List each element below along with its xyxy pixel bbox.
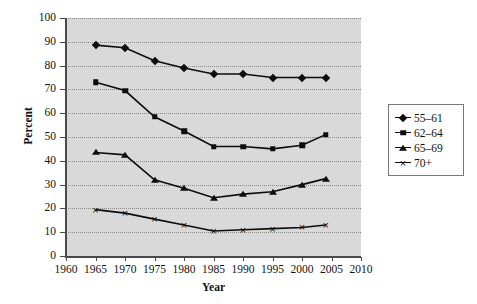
y-tick-mark <box>60 208 65 209</box>
y-tick-label: 80 <box>28 60 56 72</box>
legend-item-label: 62–64 <box>411 127 443 139</box>
y-axis-line <box>65 18 67 257</box>
data-point-marker: × <box>268 224 277 233</box>
data-point-marker <box>209 70 217 78</box>
data-point-marker: × <box>150 215 159 224</box>
plot-area: ××××××××× <box>66 18 361 256</box>
y-tick-mark <box>60 161 65 162</box>
legend-item: 65–69 <box>395 140 459 155</box>
y-tick-label: 100 <box>28 12 56 24</box>
data-point-marker <box>323 132 329 138</box>
legend-item-label: 55–61 <box>411 112 443 124</box>
x-tick-label: 2010 <box>337 263 385 275</box>
data-markers: ××××××××× <box>66 18 361 256</box>
x-tick-mark <box>273 257 274 261</box>
data-point-marker: × <box>180 221 189 230</box>
data-point-marker <box>299 143 305 149</box>
data-point-marker <box>268 73 276 81</box>
y-tick-label: 90 <box>28 36 56 48</box>
data-point-marker <box>211 144 217 150</box>
data-point-marker <box>122 88 128 94</box>
data-point-marker <box>239 70 247 78</box>
data-point-marker <box>91 41 99 49</box>
legend-item: 62–64 <box>395 125 459 140</box>
x-tick-mark <box>184 257 185 261</box>
y-tick-mark <box>60 113 65 114</box>
data-point-marker: × <box>121 209 130 218</box>
legend-item-label: 65–69 <box>411 142 443 154</box>
data-point-marker <box>239 191 247 197</box>
legend-item-label: 70+ <box>411 157 432 169</box>
data-point-marker: × <box>91 205 100 214</box>
data-point-marker <box>210 194 218 200</box>
data-point-marker <box>180 64 188 72</box>
x-tick-mark <box>66 257 67 261</box>
data-point-marker <box>269 188 277 194</box>
data-point-marker <box>93 80 99 86</box>
data-point-marker <box>240 144 246 150</box>
data-point-marker <box>270 146 276 152</box>
data-point-marker: × <box>321 221 330 230</box>
y-tick-label: 0 <box>28 250 56 262</box>
data-point-marker <box>298 73 306 81</box>
data-point-marker <box>152 114 158 120</box>
legend-square-icon <box>395 127 411 139</box>
data-point-marker <box>92 149 100 155</box>
legend-item: 55–61 <box>395 110 459 125</box>
data-point-marker: × <box>239 225 248 234</box>
y-tick-mark <box>60 137 65 138</box>
y-tick-label: 30 <box>28 179 56 191</box>
y-tick-mark <box>60 89 65 90</box>
data-point-marker <box>121 44 129 52</box>
y-tick-mark <box>60 256 65 257</box>
data-point-marker <box>151 177 159 183</box>
legend-diamond-icon <box>395 112 411 124</box>
x-tick-mark <box>361 257 362 261</box>
data-point-marker: × <box>209 227 218 236</box>
y-axis-title: Percent <box>22 86 34 166</box>
x-axis-title: Year <box>66 281 361 293</box>
x-tick-mark <box>302 257 303 261</box>
data-point-marker <box>181 128 187 134</box>
data-point-marker <box>298 181 306 187</box>
x-tick-mark <box>214 257 215 261</box>
data-point-marker <box>121 152 129 158</box>
legend-cross-icon: × <box>395 157 411 169</box>
y-tick-mark <box>60 232 65 233</box>
data-point-marker <box>322 175 330 181</box>
y-tick-mark <box>60 18 65 19</box>
y-tick-mark <box>60 66 65 67</box>
y-tick-label: 10 <box>28 226 56 238</box>
x-tick-mark <box>125 257 126 261</box>
y-tick-label: 20 <box>28 202 56 214</box>
chart-figure: ××××××××× 0102030405060708090100 1960196… <box>0 0 477 304</box>
x-tick-mark <box>332 257 333 261</box>
y-tick-mark <box>60 185 65 186</box>
legend-triangle-icon <box>395 142 411 154</box>
data-point-marker <box>321 73 329 81</box>
y-tick-mark <box>60 42 65 43</box>
x-tick-mark <box>243 257 244 261</box>
legend-item: × 70+ <box>395 155 459 170</box>
x-tick-mark <box>155 257 156 261</box>
data-point-marker <box>150 57 158 65</box>
data-point-marker <box>180 185 188 191</box>
legend: 55–61 62–64 65–69 × 70+ <box>388 104 464 176</box>
data-point-marker: × <box>298 223 307 232</box>
x-tick-mark <box>96 257 97 261</box>
